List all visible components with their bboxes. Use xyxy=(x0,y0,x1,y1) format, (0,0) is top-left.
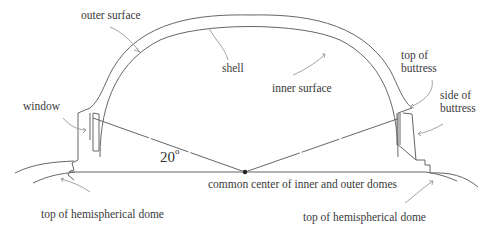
top-of-buttress-label: top of buttress xyxy=(401,49,437,75)
left-dome-outer-line xyxy=(15,161,74,173)
leader-arrows xyxy=(61,27,443,203)
inner-surface-label: inner surface xyxy=(272,82,332,95)
right-window-ray xyxy=(245,118,400,172)
inner-surface-arc xyxy=(100,27,398,158)
center-dot xyxy=(243,170,247,174)
window-label: window xyxy=(23,100,60,113)
outer-surface-arrow xyxy=(110,27,140,52)
top-of-buttress-arrow xyxy=(410,80,432,107)
angle-unit: o xyxy=(175,146,180,156)
right-buttress xyxy=(397,108,430,173)
side-of-buttress-line1: side of xyxy=(440,89,476,102)
right-dome-arrow xyxy=(405,181,433,203)
inner-surface-arrow xyxy=(293,54,325,75)
top-of-buttress-line1: top of xyxy=(401,49,437,62)
left-dome-arrow xyxy=(61,179,90,192)
angle-label: 20o xyxy=(160,148,180,166)
angle-value: 20 xyxy=(160,149,175,165)
outer-surface-arc xyxy=(90,15,412,108)
window-arrow xyxy=(63,118,86,130)
dome-drawing xyxy=(0,0,493,239)
dome-diagram: outer surface shell inner surface top of… xyxy=(0,0,493,239)
top-hemispherical-right-label: top of hemispherical dome xyxy=(303,211,426,224)
shell-label: shell xyxy=(222,62,244,75)
top-hemispherical-left-label: top of hemispherical dome xyxy=(41,208,164,221)
outer-surface-label: outer surface xyxy=(81,9,141,22)
shell-arrow xyxy=(209,28,228,60)
common-center-label: common center of inner and outer domes xyxy=(208,178,397,191)
side-of-buttress-arrow xyxy=(418,124,443,134)
top-of-buttress-line2: buttress xyxy=(401,62,437,75)
side-of-buttress-label: side of buttress xyxy=(440,89,476,115)
side-of-buttress-line2: buttress xyxy=(440,102,476,115)
